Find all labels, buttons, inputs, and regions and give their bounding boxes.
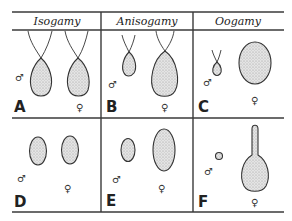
- male-gamete: [123, 52, 136, 76]
- panel-letter: B: [106, 98, 117, 116]
- header-anisogamy: Anisogamy: [115, 15, 178, 28]
- panel-c: ♂ ♀ C: [198, 42, 271, 116]
- female-symbol: ♀: [251, 197, 258, 208]
- female-symbol: ♀: [64, 183, 71, 194]
- female-gamete: [242, 125, 269, 191]
- panel-letter: E: [106, 192, 116, 210]
- male-gamete: [30, 58, 51, 96]
- female-gamete: [62, 136, 79, 164]
- male-symbol: ♂: [204, 166, 213, 177]
- flagellum: [41, 31, 52, 58]
- male-gamete: [213, 62, 221, 76]
- female-gamete: [153, 129, 175, 171]
- panel-f: ♂ ♀ F: [198, 125, 268, 211]
- male-gamete: [30, 137, 47, 165]
- panel-letter: A: [14, 98, 26, 116]
- panel-letter: F: [198, 193, 208, 211]
- male-symbol: ♂: [203, 77, 212, 88]
- gamete-types-diagram: Isogamy Anisogamy Oogamy ♂ ♀ A ♂ ♀ B ♂ ♀…: [0, 0, 292, 221]
- flagellum: [28, 31, 41, 58]
- flagellum: [156, 31, 165, 51]
- panel-a: ♂ ♀ A: [14, 31, 89, 116]
- flagellum: [165, 31, 174, 51]
- male-symbol: ♂: [112, 174, 121, 185]
- flagellum: [217, 50, 221, 62]
- female-gamete: [239, 42, 271, 84]
- male-symbol: ♂: [15, 72, 24, 83]
- male-gamete: [216, 153, 223, 160]
- panel-letter: D: [14, 193, 26, 211]
- panel-e: ♂ ♀ E: [106, 129, 175, 210]
- panel-b: ♂ ♀ B: [106, 31, 178, 116]
- header-isogamy: Isogamy: [33, 15, 82, 28]
- flagellum: [78, 31, 88, 58]
- flagellum: [129, 35, 135, 52]
- flagellum: [122, 35, 129, 52]
- female-symbol: ♀: [251, 95, 258, 106]
- female-symbol: ♀: [76, 102, 83, 113]
- header-oogamy: Oogamy: [215, 15, 262, 28]
- male-gamete: [121, 139, 135, 162]
- female-symbol: ♀: [161, 102, 168, 113]
- male-symbol: ♂: [17, 173, 26, 184]
- male-symbol: ♂: [108, 79, 117, 90]
- female-symbol: ♀: [158, 183, 165, 194]
- panel-letter: C: [198, 98, 209, 116]
- panel-d: ♂ ♀ D: [14, 136, 79, 211]
- flagellum: [65, 31, 78, 58]
- female-gamete: [152, 51, 178, 96]
- flagellum: [212, 50, 217, 62]
- female-gamete: [67, 58, 89, 96]
